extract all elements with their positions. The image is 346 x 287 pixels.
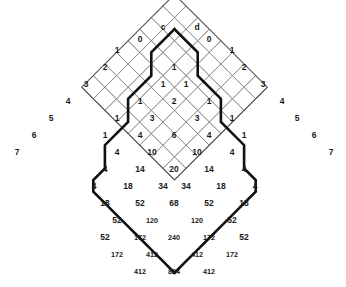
- cell-value: 240: [168, 233, 180, 242]
- cell-value: 68: [169, 198, 179, 208]
- cell-value: 2: [172, 96, 177, 106]
- cell-value: 1: [115, 113, 120, 123]
- cell-value: 4: [138, 130, 143, 140]
- cell-value: 52: [135, 198, 145, 208]
- cell-value: 4: [92, 181, 97, 191]
- cell-value: 18: [239, 198, 249, 208]
- cell-value: 2: [242, 62, 247, 72]
- cell-value: 172: [111, 250, 123, 259]
- cell-value: 6: [32, 130, 37, 140]
- cell-value: 1: [115, 45, 120, 55]
- cell-value: 5: [295, 113, 300, 123]
- cell-value: 1: [230, 113, 235, 123]
- cell-value: 14: [135, 164, 145, 174]
- cell-value: 1: [207, 96, 212, 106]
- cell-value: 824: [168, 267, 180, 276]
- cell-value: 1: [230, 45, 235, 55]
- cell-value: 1: [172, 62, 177, 72]
- cell-value: 4: [207, 130, 212, 140]
- grid-lines: [82, 0, 268, 180]
- cell-value: 52: [100, 232, 110, 242]
- lattice-cell: [175, 52, 198, 75]
- lattice-cell: [117, 64, 140, 87]
- cell-value: 7: [15, 147, 20, 157]
- lattice-cell: [140, 87, 163, 110]
- cell-value: 34: [158, 181, 168, 191]
- cell-values: cd00111211231213413314514641564101046741…: [15, 22, 334, 276]
- cell-value: 14: [204, 164, 214, 174]
- cell-value: 5: [49, 113, 54, 123]
- cell-value: 52: [112, 215, 122, 225]
- cell-value: 3: [195, 113, 200, 123]
- outer-diamond-outline: [82, 0, 268, 180]
- cell-value: 3: [150, 113, 155, 123]
- cell-value: 2: [103, 62, 108, 72]
- cell-value: 3: [84, 79, 89, 89]
- lattice-cell: [175, 122, 198, 145]
- cell-value: 52: [239, 232, 249, 242]
- cell-value: 412: [146, 250, 158, 259]
- cell-value: 7: [329, 147, 334, 157]
- lattice-cell: [163, 41, 186, 64]
- cell-value: 6: [312, 130, 317, 140]
- cell-value: 4: [242, 164, 247, 174]
- cell-value: 4: [253, 181, 258, 191]
- lattice-cell: [209, 64, 232, 87]
- cell-value: 412: [191, 250, 203, 259]
- lattice-cell: [117, 41, 140, 64]
- cell-value: 120: [191, 216, 203, 225]
- cell-value: 4: [230, 147, 235, 157]
- lattice-figure: cd00111211231213413314514641564101046741…: [0, 0, 346, 287]
- cell-value: 18: [100, 198, 110, 208]
- cell-value: 1: [184, 79, 189, 89]
- cell-value: 0: [207, 34, 212, 44]
- cell-value: 4: [66, 96, 71, 106]
- cell-value: 1: [242, 130, 247, 140]
- cell-value: 18: [123, 181, 133, 191]
- cell-value: d: [194, 22, 199, 32]
- lattice-cell: [221, 76, 244, 99]
- cell-value: 4: [103, 164, 108, 174]
- cell-value: 34: [181, 181, 191, 191]
- cell-value: 6: [172, 130, 177, 140]
- lattice-cell: [93, 87, 116, 110]
- cell-value: 18: [216, 181, 226, 191]
- lattice-cell: [221, 52, 244, 75]
- cell-value: 172: [134, 233, 146, 242]
- lattice-cell: [140, 18, 163, 41]
- cell-value: 52: [227, 215, 237, 225]
- cell-value: 3: [261, 79, 266, 89]
- diamond-outline: [82, 0, 268, 180]
- lattice-cell: [105, 76, 128, 99]
- lattice-cell: [105, 52, 128, 75]
- cell-value: 0: [138, 34, 143, 44]
- cell-value: 120: [146, 216, 158, 225]
- cell-value: 412: [203, 267, 215, 276]
- cell-value: 20: [169, 164, 179, 174]
- cell-value: 4: [115, 147, 120, 157]
- lattice-cell: [128, 52, 151, 75]
- lattice-cell: [233, 87, 256, 110]
- cell-value: 1: [161, 79, 166, 89]
- cell-value: 172: [226, 250, 238, 259]
- cell-value: 4: [280, 96, 285, 106]
- cell-value: c: [161, 22, 166, 32]
- cell-value: 52: [204, 198, 214, 208]
- cell-value: 1: [103, 130, 108, 140]
- lattice-diagram: cd00111211231213413314514641564101046741…: [0, 0, 346, 287]
- cell-value: 10: [192, 147, 202, 157]
- cell-value: 10: [147, 147, 157, 157]
- cell-value: 412: [134, 267, 146, 276]
- lattice-cell: [198, 52, 221, 75]
- cell-value: 1: [138, 96, 143, 106]
- cell-value: 172: [203, 233, 215, 242]
